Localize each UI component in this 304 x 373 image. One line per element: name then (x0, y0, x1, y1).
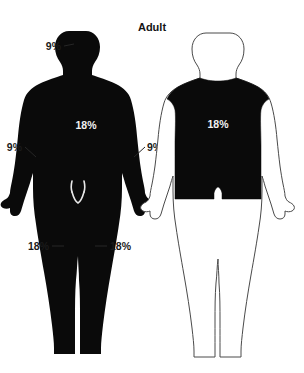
front-head-percent: 9% (46, 40, 62, 52)
anterior-body-front-view: 9% 9% 9% 18% 18% 18% (1, 31, 163, 354)
posterior-body-back-view: 18% (141, 33, 295, 357)
page-title: Adult (138, 21, 166, 33)
front-right-arm-percent: 9% (7, 141, 23, 153)
front-groin-detail (71, 181, 72, 192)
front-trunk-percent: 18% (75, 119, 97, 131)
rule-of-nines-diagram: Adult 9% 9% 9% 18% 18% 18% (0, 0, 304, 373)
front-left-leg-percent: 18% (110, 240, 132, 252)
back-trunk-fill (167, 78, 269, 199)
front-body-silhouette (1, 31, 155, 354)
back-trunk-percent: 18% (207, 118, 229, 130)
front-groin-detail-2 (84, 181, 85, 192)
front-right-leg-percent: 18% (28, 240, 50, 252)
